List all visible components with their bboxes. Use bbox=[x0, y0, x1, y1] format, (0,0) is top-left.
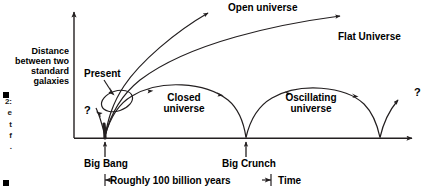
span-label: Roughly 100 billion years bbox=[110, 175, 231, 186]
present-epoch-ellipse bbox=[99, 87, 136, 116]
question-mark-left: ? bbox=[84, 104, 91, 116]
big-bang-label: Big Bang bbox=[84, 158, 128, 169]
x-axis-label: Time bbox=[278, 175, 301, 186]
present-label: Present bbox=[84, 68, 121, 79]
cosmology-expansion-diagram: 2: e t f . Distance between two standard… bbox=[0, 0, 428, 194]
flat-universe-label: Flat Universe bbox=[338, 31, 401, 42]
big-crunch-label: Big Crunch bbox=[222, 158, 276, 169]
question-mark-right: ? bbox=[414, 86, 421, 98]
y-axis-label: Distance between two standard galaxies bbox=[3, 46, 69, 86]
caption-bullet-bottom bbox=[3, 180, 9, 186]
big-bang-trunk bbox=[104, 124, 105, 138]
oscillating-universe-label: Oscillating universe bbox=[272, 92, 350, 114]
figure-caption-cropped: 2: e t f . bbox=[0, 96, 12, 153]
open-universe-label: Open universe bbox=[228, 2, 297, 13]
curve-flat-universe bbox=[105, 16, 340, 136]
closed-universe-label: Closed universe bbox=[150, 92, 218, 114]
curve-future-unknown-right bbox=[380, 100, 398, 138]
